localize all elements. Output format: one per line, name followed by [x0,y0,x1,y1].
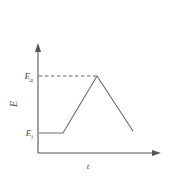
y-tick-label-lower: Ei [25,128,34,140]
energy-time-figure: Ea Ei E t [0,0,171,183]
plot-canvas: Ea Ei E t [0,0,171,183]
x-axis [38,150,161,156]
y-tick-label-upper: Ea [24,71,34,83]
y-axis [35,43,41,153]
y-axis-title: E [8,101,19,108]
x-axis-arrowhead [152,150,161,156]
y-axis-arrowhead [35,43,41,52]
y-tick-upper-subscript: a [30,77,33,83]
y-tick-lower-subscript: i [31,134,33,140]
energy-profile-line [39,76,133,133]
x-axis-title: t [87,161,90,171]
